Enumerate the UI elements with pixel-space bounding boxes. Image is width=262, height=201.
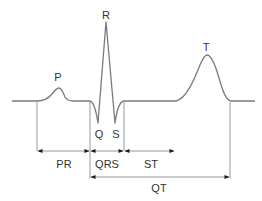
ecg-diagram: P R Q S T PR QRS ST QT: [0, 0, 262, 201]
label-p-wave: P: [54, 71, 61, 83]
ecg-trace: [12, 22, 255, 123]
label-t-wave: T: [203, 41, 210, 53]
label-st-interval: ST: [144, 158, 158, 170]
label-r-wave: R: [102, 9, 110, 21]
label-pr-interval: PR: [56, 158, 71, 170]
label-qt-interval: QT: [151, 182, 167, 194]
label-qrs-interval: QRS: [95, 158, 119, 170]
label-s-wave: S: [112, 128, 119, 140]
label-q-wave: Q: [95, 128, 104, 140]
